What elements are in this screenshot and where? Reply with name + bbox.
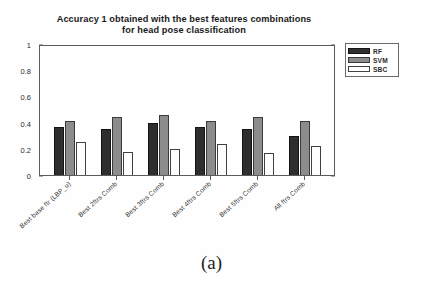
y-axis-tick-label: 0.2 [21,145,31,154]
bar-svm [159,115,169,175]
bar-group [54,46,86,175]
bar-rf [101,129,111,176]
x-axis-labels: Best base ftr (LBP_u)Best 2ftrs CombBest… [0,176,423,246]
bars-layer [40,46,334,175]
chart-title: Accuracy 1 obtained with the best featur… [34,14,334,36]
bar-group [242,46,274,175]
bar-group [148,46,180,175]
y-axis-tick-label: 0.8 [21,67,31,76]
legend-item: SVM [348,56,396,64]
x-axis-label: Best 5ftrs Comb [218,180,259,218]
bar-sbc [170,149,180,175]
x-axis-label: All ftrs Comb [273,180,307,212]
bar-rf [289,136,299,175]
legend-swatch-svm [348,57,370,63]
chart-legend: RFSVMSBC [345,43,399,77]
bar-group [101,46,133,175]
bar-sbc [217,144,227,175]
y-axis-labels: 00.20.40.60.81 [0,45,36,176]
bar-sbc [264,153,274,175]
bar-group [289,46,321,175]
bar-group [195,46,227,175]
legend-item: RF [348,47,396,55]
chart-title-line-2: for head pose classification [34,25,334,36]
plot-area [39,45,335,176]
y-axis-tick-label: 0.4 [21,119,31,128]
figure-panel: Accuracy 1 obtained with the best featur… [0,0,423,293]
bar-sbc [311,146,321,175]
bar-svm [65,121,75,175]
bar-rf [148,123,158,175]
legend-swatch-rf [348,48,370,54]
legend-label: SBC [373,66,388,73]
x-axis-label: Best 2ftrs Comb [77,180,118,218]
bar-rf [54,127,64,175]
chart-title-line-1: Accuracy 1 obtained with the best featur… [57,14,312,24]
bar-svm [300,121,310,175]
bar-sbc [123,152,133,175]
x-axis-label: Best 4ftrs Comb [171,180,212,218]
legend-label: RF [373,48,382,55]
y-axis-tick-label: 1 [27,41,31,50]
x-axis-label: Best 3ftrs Comb [124,180,165,218]
bar-rf [195,127,205,175]
y-axis-tick-label: 0.6 [21,93,31,102]
legend-label: SVM [373,57,388,64]
x-axis-label: Best base ftr (LBP_u) [18,180,72,229]
figure-caption: (a) [0,252,423,274]
bar-svm [253,117,263,175]
bar-svm [112,117,122,175]
legend-item: SBC [348,65,396,73]
bar-rf [242,129,252,176]
legend-swatch-sbc [348,66,370,72]
bar-sbc [76,142,86,175]
bar-svm [206,121,216,175]
